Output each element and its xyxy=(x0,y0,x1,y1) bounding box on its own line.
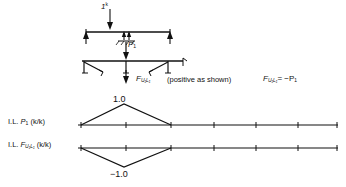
relation-rhs: = −P₁ xyxy=(277,74,297,83)
relation-subscript: U₁L₁ xyxy=(268,77,278,83)
member-force-label: FU₁L₁ xyxy=(136,74,150,83)
il-p1-ordinate-line xyxy=(81,104,171,125)
p1-label: P1 xyxy=(128,40,136,49)
influence-line-figure xyxy=(0,0,346,187)
force-relation-equation: FU₁L₁= −P₁ xyxy=(263,74,297,83)
il-f-peak-value: −1.0 xyxy=(110,169,128,179)
unit-load-arrow xyxy=(107,9,113,30)
il-f-prefix: I.L. xyxy=(8,140,21,149)
il-p1-axis-label: I.L. P1 (k/k) xyxy=(8,117,45,126)
top-right-reaction-arrow xyxy=(167,31,173,44)
il-f-subscript: U₁L₁ xyxy=(25,143,35,149)
il-f-axis-label: I.L. FU₁L₁ (k/k) xyxy=(8,140,51,149)
unit-load-label: 1k xyxy=(101,1,108,11)
p1-subscript: 1 xyxy=(133,43,136,49)
truss-right-members xyxy=(149,61,171,76)
il-p1-prefix: I.L. xyxy=(8,117,21,126)
influence-line-f-u1l1-diagram xyxy=(78,145,338,167)
member-force-arrow xyxy=(123,70,129,84)
unit-load-exponent: k xyxy=(105,1,108,7)
truss-top-chord xyxy=(82,58,187,66)
il-p1-peak-value: 1.0 xyxy=(113,94,126,104)
positive-sign-note: (positive as shown) xyxy=(167,75,231,84)
top-left-reaction-arrow xyxy=(83,31,89,44)
member-force-subscript: U₁L₁ xyxy=(141,77,151,83)
truss-left-members xyxy=(82,61,103,76)
influence-line-p1-diagram xyxy=(78,104,338,128)
il-p1-units: (k/k) xyxy=(28,117,45,126)
il-f-units: (k/k) xyxy=(35,140,52,149)
